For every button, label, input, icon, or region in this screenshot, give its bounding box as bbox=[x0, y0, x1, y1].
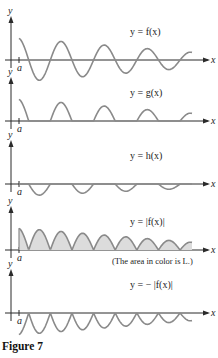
x-axis-label-absf: x bbox=[210, 244, 216, 255]
y-axis-label-g: y bbox=[7, 66, 13, 77]
y-axis-label-negabsf: y bbox=[7, 258, 13, 269]
tick-label-a-absf: a bbox=[17, 252, 22, 263]
y-axis-arrow-h bbox=[9, 140, 14, 147]
curve-negabsf bbox=[19, 313, 192, 334]
x-axis-label-g: x bbox=[210, 115, 216, 126]
equation-label-f: y = f(x) bbox=[130, 26, 161, 38]
equation-label-absf: y = |f(x)| bbox=[130, 216, 165, 228]
equation-label-g: y = g(x) bbox=[130, 87, 162, 99]
y-axis-label-absf: y bbox=[7, 195, 13, 206]
equation-label-negabsf: y = − |f(x)| bbox=[130, 279, 173, 291]
x-axis-arrow-negabsf bbox=[203, 311, 210, 316]
x-axis-label-f: x bbox=[210, 54, 216, 65]
tick-label-a-h: a bbox=[17, 186, 22, 197]
y-axis-arrow-f bbox=[9, 16, 14, 23]
y-axis-label-f: y bbox=[7, 5, 13, 16]
curve-g bbox=[19, 99, 192, 121]
figure-caption: Figure 7 bbox=[2, 340, 43, 352]
x-axis-arrow-g bbox=[203, 119, 210, 124]
equation-label-h: y = h(x) bbox=[130, 150, 162, 162]
x-axis-arrow-absf bbox=[203, 248, 210, 253]
tick-label-a-g: a bbox=[17, 123, 22, 134]
curve-f bbox=[19, 38, 192, 80]
figure-7-chart: yxay = f(x)yxay = g(x)yxay = h(x)yxay = … bbox=[0, 0, 218, 358]
x-axis-label-h: x bbox=[210, 178, 216, 189]
tick-label-a-f: a bbox=[17, 62, 22, 73]
tick-label-a-negabsf: a bbox=[17, 315, 22, 326]
y-axis-arrow-g bbox=[9, 77, 14, 84]
y-axis-arrow-absf bbox=[9, 206, 14, 213]
x-axis-label-negabsf: x bbox=[210, 307, 216, 318]
curve-h bbox=[19, 184, 192, 195]
y-axis-arrow-negabsf bbox=[9, 269, 14, 276]
shaded-area-absf bbox=[19, 228, 192, 250]
y-axis-label-h: y bbox=[7, 129, 13, 140]
x-axis-arrow-h bbox=[203, 182, 210, 187]
x-axis-arrow-f bbox=[203, 58, 210, 63]
area-note-absf: (The area in color is L.) bbox=[112, 256, 193, 266]
